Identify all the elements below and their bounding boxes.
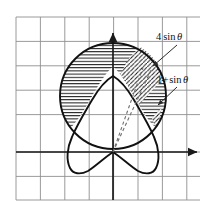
polar-figure-canvas: 4sinθ 1+sinθ [0, 0, 224, 223]
curve-label-4-sin-theta: 4sinθ [156, 31, 182, 42]
curve-labels: 4sinθ 1+sinθ [156, 31, 188, 85]
leader-line-4-sin-theta [153, 45, 177, 66]
polar-plot-figure: 4sinθ 1+sinθ [0, 0, 224, 223]
label-4-function: sin [163, 31, 176, 42]
label-1-variable: θ [183, 74, 188, 85]
label-1-constant: 1 [157, 74, 162, 85]
label-1-operator: + [163, 74, 169, 85]
curve-label-1-plus-sin-theta: 1+sinθ [157, 74, 188, 85]
label-4-coefficient: 4 [156, 31, 162, 42]
label-4-variable: θ [177, 31, 182, 42]
label-1-function: sin [169, 74, 182, 85]
